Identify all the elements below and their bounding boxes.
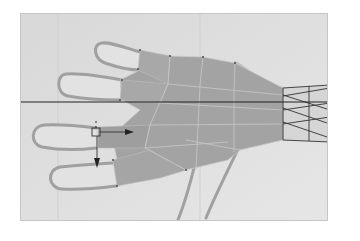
3d-viewport[interactable] [20, 13, 328, 221]
wrist-wireframe[interactable] [283, 85, 328, 142]
